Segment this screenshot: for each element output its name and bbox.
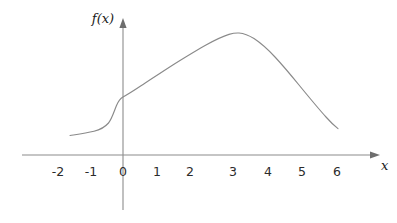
plot-canvas: -2 -1 0 1 2 3 4 5 6 f(x) x [0, 0, 397, 223]
x-axis-label: x [381, 158, 389, 173]
function-curve [70, 33, 338, 136]
x-axis-arrow-icon [370, 151, 380, 158]
x-tick-label-2: 2 [186, 164, 194, 179]
x-tick-label-minus-2: -2 [52, 164, 64, 179]
x-tick-label-3: 3 [229, 164, 237, 179]
x-tick-label-minus-1: -1 [85, 164, 97, 179]
x-tick-label-1: 1 [153, 164, 161, 179]
x-tick-label-0: 0 [119, 164, 127, 179]
function-graph-figure: -2 -1 0 1 2 3 4 5 6 f(x) x [0, 0, 397, 223]
y-axis-label: f(x) [91, 11, 114, 26]
y-axis-arrow-icon [119, 18, 126, 28]
x-tick-label-4: 4 [264, 164, 272, 179]
x-tick-label-5: 5 [298, 164, 306, 179]
x-tick-label-6: 6 [333, 164, 341, 179]
